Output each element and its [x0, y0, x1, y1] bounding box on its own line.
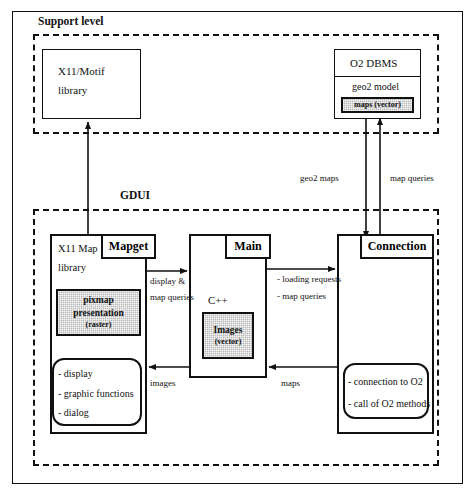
x11-map-library-line2: library [58, 262, 86, 273]
main-tab-label: Main [234, 239, 261, 254]
edge-label-map-queries-right: - map queries [277, 291, 326, 302]
connection-functions-list: - connection to O2 - call of O2 methods [348, 371, 430, 415]
images-vector-line1: Images [213, 324, 242, 337]
edge-label-loading-requests: - loading requests [277, 274, 341, 285]
o2-dbms-maps-vector-label: maps (vector) [354, 100, 401, 111]
edge-label-geo2-maps: geo2 maps [300, 173, 339, 184]
x11-map-functions-item-graphic-functions: - graphic functions [58, 384, 134, 404]
o2-dbms-header: O2 DBMS [350, 57, 397, 69]
x11-motif-library-line1: X11/Motif [58, 65, 105, 77]
connection-tab[interactable]: Connection [360, 234, 434, 259]
x11-map-functions-item-dialog: - dialog [58, 403, 134, 423]
pixmap-presentation-shaded: pixmap presentation (raster) [56, 289, 141, 336]
images-vector-line2: (vector) [215, 337, 242, 348]
gdui-title: GDUI [120, 189, 150, 201]
x11-map-library-line1: X11 Map [58, 243, 98, 254]
images-vector-shaded: Images (vector) [202, 312, 254, 359]
edge-label-display-and: display & [150, 276, 185, 287]
x11-map-functions-item-display: - display [58, 364, 134, 384]
edge-label-images: images [150, 378, 176, 389]
support-level-title: Support level [38, 15, 104, 27]
main-language-label: C++ [208, 294, 228, 306]
o2-dbms-maps-vector-shaded: maps (vector) [341, 97, 414, 113]
x11-map-functions-list: - display - graphic functions - dialog [58, 364, 134, 423]
diagram-canvas: Support level X11/Motif library O2 DBMS … [0, 0, 475, 500]
x11-motif-library-line2: library [58, 84, 87, 96]
edge-label-maps: maps [281, 378, 300, 389]
pixmap-presentation-line2: presentation [73, 307, 124, 320]
o2-dbms-model-label: geo2 model [352, 81, 399, 92]
mapget-tab-label: Mapget [109, 239, 148, 254]
x11-motif-library-box [42, 49, 141, 119]
main-tab[interactable]: Main [225, 234, 271, 259]
connection-tab-label: Connection [368, 239, 427, 254]
connection-functions-item-connection-to-o2: - connection to O2 [348, 371, 430, 393]
edge-label-map-queries-vertical: map queries [390, 173, 434, 184]
o2-dbms-header-divider [334, 76, 421, 77]
connection-functions-item-call-of-o2-methods: - call of O2 methods [348, 393, 430, 415]
edge-label-map-queries-left: map queries [150, 292, 194, 303]
pixmap-presentation-line1: pixmap [83, 294, 114, 307]
mapget-tab[interactable]: Mapget [101, 234, 156, 259]
pixmap-presentation-line3: (raster) [86, 320, 112, 331]
